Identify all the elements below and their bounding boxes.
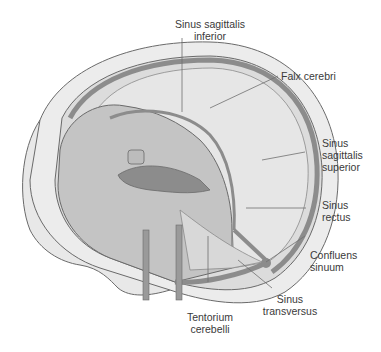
label-line: Confluens bbox=[310, 249, 357, 261]
label-tentorium-cerebelli: Tentorium cerebelli bbox=[175, 311, 245, 335]
label-line: superior bbox=[322, 161, 363, 173]
label-line: Sinus bbox=[322, 137, 363, 149]
label-confluens-sinuum: Confluens sinuum bbox=[310, 249, 357, 273]
label-sinus-sagittalis-inferior: Sinus sagittalis inferior bbox=[150, 18, 270, 42]
label-line: Sinus bbox=[255, 293, 325, 305]
label-line: Sinus sagittalis bbox=[150, 18, 270, 30]
label-line: sagittalis bbox=[322, 149, 363, 161]
pineal-region bbox=[128, 150, 144, 164]
label-sinus-sagittalis-superior: Sinus sagittalis superior bbox=[322, 137, 363, 173]
label-line: transversus bbox=[255, 305, 325, 317]
label-line: cerebelli bbox=[175, 323, 245, 335]
label-line: inferior bbox=[150, 30, 270, 42]
vessel-left bbox=[143, 230, 149, 300]
label-line: Sinus bbox=[322, 199, 351, 211]
vessel-right bbox=[176, 225, 182, 300]
label-line: Falx cerebri bbox=[281, 70, 336, 82]
label-falx-cerebri: Falx cerebri bbox=[281, 70, 336, 82]
label-line: sinuum bbox=[310, 261, 357, 273]
label-line: rectus bbox=[322, 211, 351, 223]
label-sinus-rectus: Sinus rectus bbox=[322, 199, 351, 223]
label-line: Tentorium bbox=[175, 311, 245, 323]
label-sinus-transversus: Sinus transversus bbox=[255, 293, 325, 317]
